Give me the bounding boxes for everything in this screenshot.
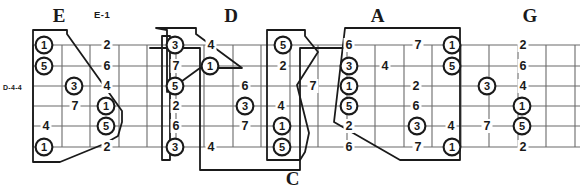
note-degree: 5 (519, 120, 525, 132)
fret-line-group (33, 45, 575, 147)
top-label: E-1 (94, 9, 111, 20)
note-degree: 4 (208, 140, 215, 154)
note-plain: 7 (482, 119, 493, 133)
note-degree: 6 (173, 119, 180, 133)
note-degree: 6 (520, 59, 527, 73)
note-plain: 4 (446, 119, 457, 133)
note-circled: 5 (341, 98, 358, 115)
note-circled: 1 (274, 118, 291, 135)
note-plain: 6 (411, 99, 422, 113)
note-degree: 7 (415, 38, 422, 52)
note-plain: 6 (171, 119, 182, 133)
note-degree: 3 (71, 80, 77, 92)
fretboard-diagram: 1537412641523752634163745274156315264263… (0, 0, 580, 190)
note-degree: 6 (104, 59, 111, 73)
note-circled: 5 (274, 139, 291, 156)
note-circled: 3 (409, 118, 426, 135)
note-degree: 1 (103, 100, 109, 112)
note-plain: 2 (411, 79, 422, 93)
note-circled: 5 (275, 37, 292, 54)
note-degree: 5 (279, 141, 285, 153)
note-degree: 2 (104, 140, 111, 154)
note-degree: 2 (413, 79, 420, 93)
note-degree: 1 (449, 141, 455, 153)
chord-shape-label-e: E (53, 5, 66, 26)
note-degree: 5 (41, 60, 47, 72)
note-circled: 3 (479, 78, 496, 95)
note-plain: 7 (70, 99, 81, 113)
note-degree: 6 (346, 38, 353, 52)
note-plain: 2 (344, 119, 355, 133)
note-circled: 1 (36, 139, 53, 156)
note-plain: 4 (380, 59, 391, 73)
note-degree: 2 (520, 140, 527, 154)
note-plain: 2 (518, 140, 529, 154)
note-plain: 4 (276, 99, 287, 113)
note-degree: 1 (449, 39, 455, 51)
note-plain: 7 (240, 119, 251, 133)
note-circled: 1 (36, 37, 53, 54)
note-degree: 4 (104, 79, 111, 93)
note-group: 1537412641523752634163745274156315264263… (36, 37, 531, 156)
note-degree: 1 (279, 120, 285, 132)
note-degree: 3 (172, 141, 178, 153)
note-degree: 2 (104, 38, 111, 52)
note-plain: 7 (413, 38, 424, 52)
note-plain: 4 (206, 38, 217, 52)
note-plain: 4 (41, 119, 52, 133)
note-degree: 6 (346, 140, 353, 154)
note-degree: 1 (519, 100, 525, 112)
note-circled: 1 (444, 37, 461, 54)
note-plain: 2 (102, 38, 113, 52)
note-circled: 3 (66, 78, 83, 95)
note-degree: 5 (172, 80, 178, 92)
note-degree: 2 (173, 99, 180, 113)
note-plain: 7 (308, 79, 319, 93)
shape-label-group: EDAGC (53, 5, 538, 189)
note-plain: 6 (240, 79, 251, 93)
note-plain: 6 (518, 59, 529, 73)
note-degree: 7 (242, 119, 249, 133)
note-plain: 4 (206, 140, 217, 154)
note-degree: 4 (382, 59, 389, 73)
note-degree: 1 (346, 80, 352, 92)
note-degree: 2 (280, 59, 287, 73)
note-degree: 5 (280, 39, 286, 51)
string-line-group (33, 45, 580, 147)
note-plain: 6 (344, 38, 355, 52)
note-degree: 3 (346, 60, 352, 72)
note-degree: 3 (484, 80, 490, 92)
note-plain: 2 (518, 38, 529, 52)
note-plain: 7 (171, 59, 182, 73)
note-degree: 6 (242, 79, 249, 93)
note-circled: 5 (167, 78, 184, 95)
note-plain: 2 (171, 99, 182, 113)
note-degree: 2 (520, 38, 527, 52)
note-degree: 5 (449, 60, 455, 72)
note-degree: 6 (413, 99, 420, 113)
note-circled: 1 (202, 58, 219, 75)
note-degree: 7 (173, 59, 180, 73)
note-plain: 2 (102, 140, 113, 154)
note-plain: 4 (102, 79, 113, 93)
note-degree: 3 (414, 120, 420, 132)
note-degree: 4 (520, 79, 527, 93)
note-circled: 5 (444, 58, 461, 75)
note-circled: 3 (167, 37, 184, 54)
note-circled: 3 (341, 58, 358, 75)
note-degree: 1 (207, 60, 213, 72)
note-degree: 7 (484, 119, 491, 133)
note-degree: 4 (448, 119, 455, 133)
note-degree: 1 (41, 39, 47, 51)
note-plain: 6 (102, 59, 113, 73)
note-circled: 5 (36, 58, 53, 75)
note-degree: 7 (415, 140, 422, 154)
note-plain: 2 (278, 59, 289, 73)
note-degree: 1 (41, 141, 47, 153)
chord-shape-label-a: A (371, 5, 385, 26)
note-plain: 7 (413, 140, 424, 154)
note-degree: 5 (103, 120, 109, 132)
note-degree: 3 (242, 100, 248, 112)
note-degree: 4 (208, 38, 215, 52)
note-circled: 1 (98, 98, 115, 115)
